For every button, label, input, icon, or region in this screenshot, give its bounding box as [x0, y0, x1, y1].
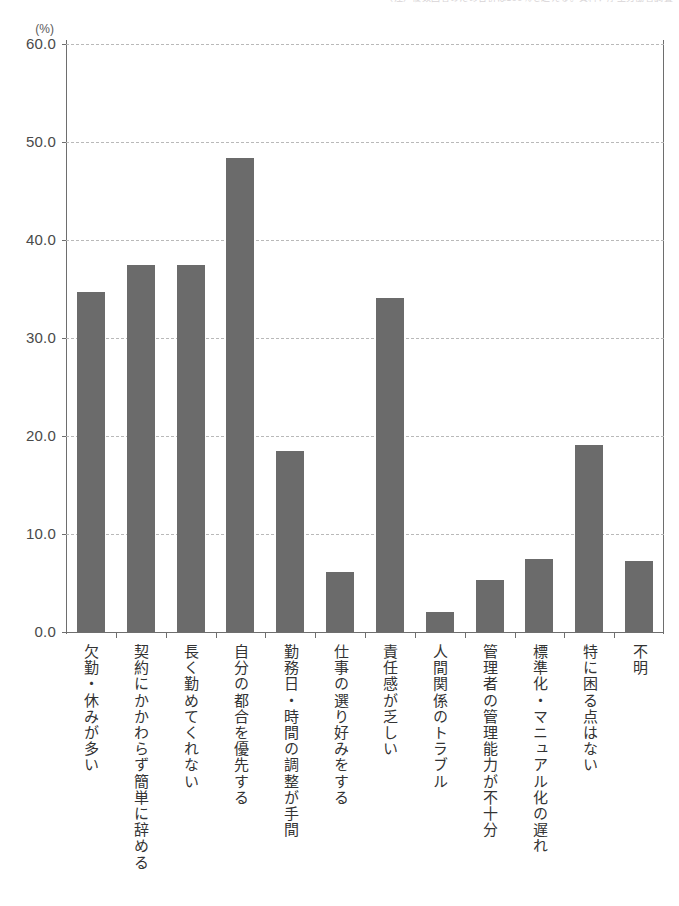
chart-source-note: （注）複数回答のため合計は100％を超える。資料：厚生労働省調査: [384, 0, 673, 4]
x-tick-mark: [515, 633, 516, 638]
x-axis-category-label: 管理者の管理能力が不十分: [479, 644, 501, 838]
y-tick-label: 50.0: [26, 133, 56, 150]
bar: [326, 572, 354, 632]
bar: [426, 612, 454, 632]
y-tick-label: 0.0: [35, 623, 56, 640]
y-tick-label: 30.0: [26, 329, 56, 346]
bar: [226, 158, 254, 632]
y-axis-labels: (%) 60.050.040.030.020.010.00.0: [0, 0, 62, 906]
x-tick-mark: [614, 633, 615, 638]
bar: [77, 292, 105, 632]
x-axis-category-label: 人間関係のトラブル: [429, 644, 451, 790]
x-axis-category-label: 自分の都合を優先する: [229, 644, 251, 806]
bar: [276, 451, 304, 632]
x-tick-mark: [564, 633, 565, 638]
bar: [127, 265, 155, 632]
x-axis-category-label: 長く勤めてくれない: [180, 644, 202, 790]
x-tick-mark: [216, 633, 217, 638]
x-tick-mark: [365, 633, 366, 638]
bar-series: [66, 44, 664, 632]
x-tick-mark: [315, 633, 316, 638]
bar: [575, 445, 603, 632]
x-tick-mark: [265, 633, 266, 638]
x-axis-category-label: 責任感が乏しい: [379, 644, 401, 757]
x-axis-category-labels: 欠勤・休みが多い契約にかかわらず簡単に辞める長く勤めてくれない自分の都合を優先す…: [66, 644, 664, 906]
x-tick-mark: [166, 633, 167, 638]
y-tick-label: 40.0: [26, 231, 56, 248]
x-axis-category-label: 標準化・マニュアル化の遅れ: [528, 644, 550, 855]
bar: [376, 298, 404, 632]
x-tick-mark: [465, 633, 466, 638]
x-axis-category-label: 勤務日・時間の調整が手間: [279, 644, 301, 838]
y-tick-label: 20.0: [26, 427, 56, 444]
x-axis-category-label: 仕事の選り好みをする: [329, 644, 351, 806]
x-axis-category-label: 不明: [628, 644, 650, 676]
y-tick-label: 60.0: [26, 35, 56, 52]
y-axis-unit-label: (%): [35, 22, 54, 36]
bar: [525, 559, 553, 632]
x-axis-category-label: 特に困る点はない: [578, 644, 600, 774]
x-axis-category-label: 欠勤・休みが多い: [80, 644, 102, 774]
top-caption-strip: （注）複数回答のため合計は100％を超える。資料：厚生労働省調査: [0, 0, 679, 7]
bar: [476, 580, 504, 632]
bar: [625, 561, 653, 632]
x-axis-category-label: 契約にかかわらず簡単に辞める: [130, 644, 152, 871]
x-tick-mark: [415, 633, 416, 638]
x-tick-mark: [116, 633, 117, 638]
bar: [177, 265, 205, 632]
x-axis-ticks: [66, 633, 664, 639]
y-tick-label: 10.0: [26, 525, 56, 542]
